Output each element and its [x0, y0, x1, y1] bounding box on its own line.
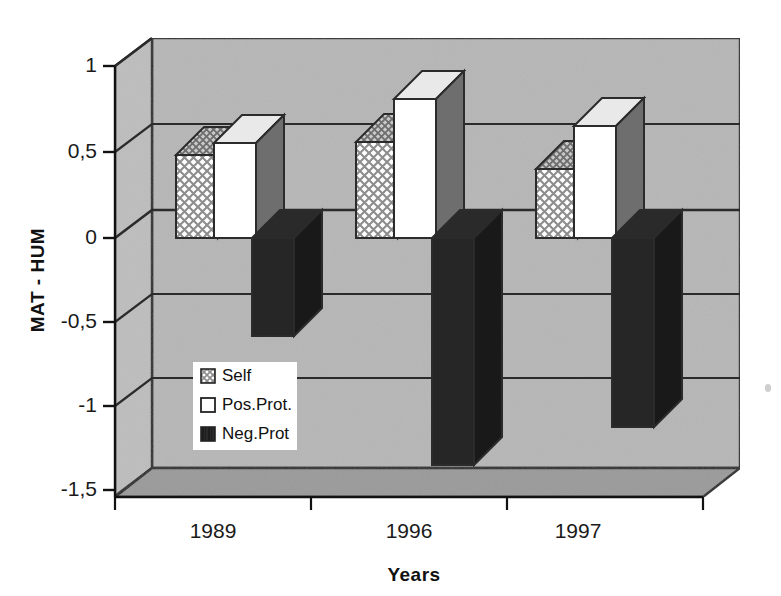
legend-label-self: Self: [222, 366, 252, 385]
legend-item-self[interactable]: Self: [201, 366, 252, 385]
legend-label-pos-prot: Pos.Prot.: [222, 395, 292, 414]
bar-1996-pos-prot[interactable]: [394, 71, 464, 238]
y-tick-label-0.5: 0,5: [68, 139, 97, 162]
x-axis: 1989 1996 1997 Years: [115, 497, 703, 585]
y-tick-label-1: 1: [85, 53, 97, 76]
left-wall: [115, 38, 152, 496]
legend-swatch-self: [201, 369, 215, 383]
x-tick-label-1997: 1997: [555, 519, 602, 542]
bar-front-face: [214, 143, 256, 238]
bar-1996-neg-prot[interactable]: [432, 210, 502, 465]
bar-front-face: [536, 169, 578, 238]
floor: [115, 468, 740, 497]
bar-front-face: [432, 238, 474, 465]
bar-chart-3d: 1 0,5 0 -0,5 -1 -1,5 MAT - HUM: [0, 0, 781, 596]
legend-item-pos-prot[interactable]: Pos.Prot.: [201, 395, 292, 414]
bar-1997-neg-prot[interactable]: [612, 210, 682, 427]
bar-side-face: [474, 210, 502, 465]
y-axis-title: MAT - HUM: [27, 228, 48, 332]
bar-front-face: [612, 238, 654, 427]
bar-front-face: [356, 142, 398, 238]
y-tick-label--1.5: -1,5: [61, 477, 97, 500]
chart-container: 1 0,5 0 -0,5 -1 -1,5 MAT - HUM: [0, 0, 781, 596]
y-tick-label-0: 0: [85, 225, 97, 248]
bar-front-face: [252, 238, 294, 336]
bar-front-face: [574, 126, 616, 238]
x-tick-label-1989: 1989: [190, 519, 237, 542]
y-axis: 1 0,5 0 -0,5 -1 -1,5 MAT - HUM: [27, 53, 115, 500]
x-axis-title: Years: [387, 564, 440, 585]
bar-front-face: [176, 155, 218, 238]
legend-swatch-pos-prot: [201, 398, 215, 412]
y-tick-label--0.5: -0,5: [61, 309, 97, 332]
legend: Self Pos.Prot. Neg.Prot: [193, 362, 297, 450]
scan-artifact: [765, 384, 771, 392]
legend-swatch-neg-prot: [201, 427, 215, 441]
x-tick-label-1996: 1996: [386, 519, 433, 542]
bar-1989-neg-prot[interactable]: [252, 210, 322, 336]
legend-label-neg-prot: Neg.Prot: [222, 424, 289, 443]
bar-front-face: [394, 99, 436, 238]
bar-side-face: [654, 210, 682, 427]
legend-item-neg-prot[interactable]: Neg.Prot: [201, 424, 289, 443]
y-tick-label--1: -1: [78, 393, 97, 416]
